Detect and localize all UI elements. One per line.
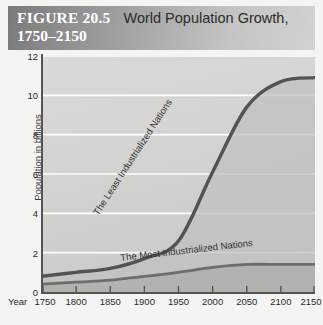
x-tick-label: 2100 — [270, 296, 291, 307]
x-axis-tick-labels: 175018001850190019502000205021002150 — [42, 296, 315, 310]
figure-header-band: FIGURE 20.5World Population Growth, 1750… — [8, 6, 315, 50]
figure-container: FIGURE 20.5World Population Growth, 1750… — [0, 0, 323, 325]
chart: Population in billions 024681012 The Lea… — [8, 56, 315, 314]
figure-number: FIGURE 20.5 — [17, 9, 110, 26]
y-tick-label: 8 — [22, 129, 38, 140]
y-tick-label: 10 — [22, 90, 38, 101]
figure-title-year-range: 1750–2150 — [17, 27, 87, 45]
x-axis-label: Year — [8, 296, 27, 307]
x-tick-label: 1950 — [168, 296, 189, 307]
figure-header-line-1: FIGURE 20.5World Population Growth, — [17, 9, 288, 27]
x-tick-label: 1850 — [100, 296, 121, 307]
x-tick-label: 1750 — [34, 296, 55, 307]
y-tick-label: 4 — [22, 208, 38, 219]
y-tick-label: 6 — [22, 169, 38, 180]
x-tick-label: 1800 — [66, 296, 87, 307]
area-fill-least-industrialized — [42, 78, 315, 292]
x-tick-label: 1900 — [134, 296, 155, 307]
population-growth-chart-svg — [42, 56, 315, 292]
figure-title: World Population Growth, — [123, 10, 288, 26]
x-tick-label: 2050 — [236, 296, 257, 307]
x-tick-label: 2150 — [300, 296, 321, 307]
y-axis-tick-labels: 024681012 — [20, 56, 38, 292]
y-axis-line — [41, 54, 43, 294]
plot-area — [42, 56, 315, 292]
x-axis-line — [42, 292, 315, 294]
y-tick-label: 2 — [22, 247, 38, 258]
x-tick-label: 2000 — [202, 296, 223, 307]
y-tick-label: 12 — [22, 51, 38, 62]
